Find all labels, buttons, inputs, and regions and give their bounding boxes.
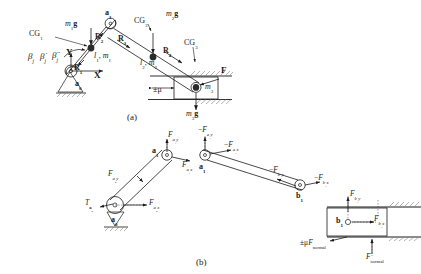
label-force-neg-b1y: −Fb1y (269, 166, 284, 175)
label-torque-a0: Ta0 (85, 199, 93, 208)
label-force-neg-a1x: −Fa1x (224, 141, 239, 150)
label-external-force-F: F (221, 66, 227, 75)
label-beta: βj (28, 52, 34, 61)
label-force-a0y: Fa0y (108, 170, 118, 179)
label-beta-dot: β̇j (40, 52, 46, 61)
label-r4: R4 (163, 47, 171, 55)
figure-canvas: a1 a0 CG1 CG2 CG3 m1g m2g m3g R1 R2 R3 R… (0, 0, 421, 274)
label-b-link1-joint-a1: a1 (152, 147, 158, 155)
slider-hatching-lower (389, 237, 419, 241)
label-weight-m3g: m3g (186, 110, 198, 118)
guide-hatching-lower (196, 100, 231, 105)
label-force-b1x: Fb1x (374, 215, 384, 224)
label-ground-pivot-a0: a0 (75, 80, 81, 88)
label-beta-ddot: β̈j (52, 51, 58, 60)
ground-support-a0 (56, 72, 86, 97)
label-force-b1y: Fb1y (350, 190, 360, 199)
label-friction-force: ±μFnormal (300, 239, 326, 247)
label-link1-props: l1, m1 (94, 52, 111, 60)
label-cg2: CG2 (134, 17, 148, 25)
label-link2-props: l2, m2 (140, 59, 157, 67)
label-r3: R3 (118, 35, 126, 43)
label-friction-mu: ±μ (153, 86, 162, 94)
label-force-a1y: Fa1y (168, 131, 178, 140)
label-joint-a1: a1 (105, 9, 111, 17)
label-normal-force: Fnormal (366, 253, 384, 261)
label-force-neg-b1x: −Fb1x (314, 174, 329, 183)
fbd-link-2 (200, 136, 320, 190)
label-axis-y: Y (66, 48, 73, 57)
label-weight-m1g: m1g (65, 20, 77, 28)
label-force-neg-a1y: −Fa1y (198, 126, 213, 135)
caption-a: (a) (127, 113, 137, 122)
label-b-link2-joint-a1: a1 (199, 163, 205, 171)
diagram-b-geometry (100, 136, 421, 256)
label-slider-b1: b1 (336, 217, 343, 225)
label-cg3: CG3 (184, 39, 198, 47)
label-force-a0x: Fa0x (149, 199, 159, 208)
label-cg1: CG1 (29, 30, 43, 38)
label-axis-x: X (94, 71, 101, 80)
label-force-a1x: Fa1x (182, 161, 192, 170)
label-b-link2-joint-b1: b1 (296, 192, 303, 200)
label-b-link1-ground-a0: a0 (111, 216, 117, 224)
label-r1: R1 (74, 64, 82, 72)
label-r2: R2 (95, 33, 103, 41)
caption-b: (b) (196, 258, 207, 267)
slider-hatching-upper (389, 202, 419, 207)
label-weight-m2g: m2g (166, 10, 178, 18)
label-slider-mass-m3: m3 (205, 83, 213, 91)
